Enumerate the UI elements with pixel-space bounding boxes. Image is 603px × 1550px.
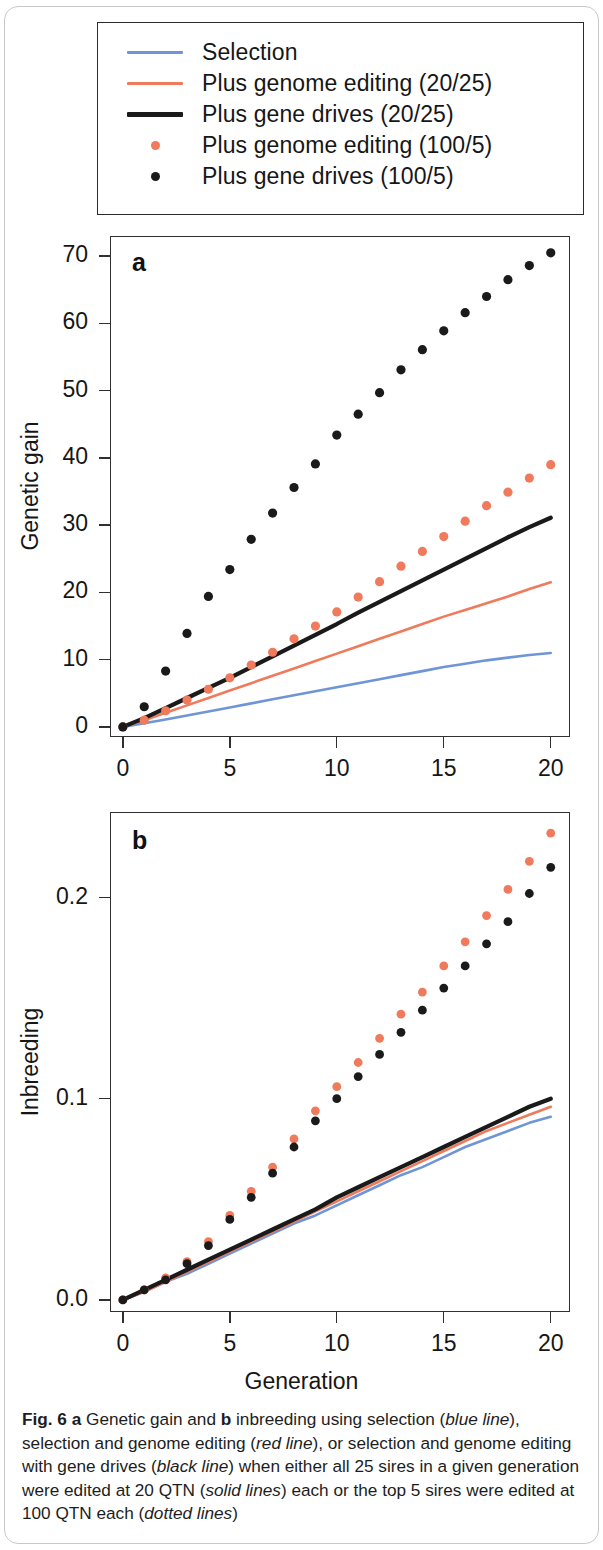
point-b-black-g3 [183, 1259, 192, 1268]
point-b-black-g0 [118, 1296, 127, 1305]
series-layer-b [0, 0, 603, 1550]
point-b-black-g18 [504, 917, 513, 926]
point-b-red-g13 [397, 1010, 406, 1019]
figure-6: SelectionPlus genome editing (20/25)Plus… [0, 0, 603, 1550]
point-b-black-g4 [204, 1241, 213, 1250]
caption-segment-12: solid lines [205, 1480, 280, 1500]
caption-segment-10: black line [157, 1456, 229, 1476]
point-b-black-g10 [332, 1094, 341, 1103]
point-b-red-g17 [482, 911, 491, 920]
point-b-black-g8 [290, 1143, 299, 1152]
figure-caption: Fig. 6 a Genetic gain and b inbreeding u… [22, 1408, 584, 1526]
point-b-black-g1 [140, 1285, 149, 1294]
caption-segment-15: ) [232, 1503, 238, 1523]
caption-segment-2: a [72, 1409, 82, 1429]
point-b-red-g14 [418, 988, 427, 997]
line-b-black-solid [123, 1099, 551, 1300]
point-b-red-g9 [311, 1106, 320, 1115]
caption-segment-3: Genetic gain and [81, 1409, 221, 1429]
point-b-red-g15 [439, 962, 448, 971]
point-b-red-g8 [290, 1135, 299, 1144]
caption-segment-8: red line [256, 1433, 312, 1453]
point-b-red-g18 [504, 885, 513, 894]
point-b-black-g9 [311, 1116, 320, 1125]
point-b-red-g16 [461, 937, 470, 946]
caption-segment-5: inbreeding using selection ( [231, 1409, 445, 1429]
point-b-black-g16 [461, 962, 470, 971]
point-b-black-g15 [439, 984, 448, 993]
caption-segment-14: dotted lines [144, 1503, 232, 1523]
point-b-black-g12 [375, 1050, 384, 1059]
point-b-black-g6 [247, 1193, 256, 1202]
caption-segment-6: blue line [445, 1409, 509, 1429]
panel-b: b0.00.10.205101520InbreedingGeneration [0, 0, 603, 1550]
point-b-red-g11 [354, 1058, 363, 1067]
point-b-black-g17 [482, 939, 491, 948]
caption-segment-0: Fig. 6 [22, 1409, 67, 1429]
point-b-black-g5 [225, 1215, 234, 1224]
point-b-black-g14 [418, 1006, 427, 1015]
point-b-red-g19 [525, 857, 534, 866]
point-b-red-g20 [546, 829, 555, 838]
point-b-black-g2 [161, 1275, 170, 1284]
point-b-black-g13 [397, 1028, 406, 1037]
point-b-black-g19 [525, 889, 534, 898]
point-b-black-g20 [546, 863, 555, 872]
caption-segment-4: b [221, 1409, 232, 1429]
point-b-black-g11 [354, 1072, 363, 1081]
point-b-black-g7 [268, 1169, 277, 1178]
point-b-red-g12 [375, 1034, 384, 1043]
point-b-red-g10 [332, 1082, 341, 1091]
